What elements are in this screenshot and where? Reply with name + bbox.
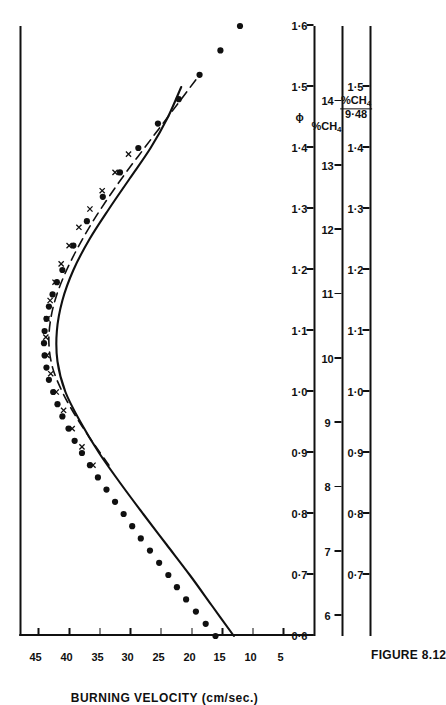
pct-ch4-over-948-tick-label: 1·5 — [342, 81, 368, 93]
pct-ch4-over-948-tick-label: 1·3 — [342, 203, 368, 215]
y-tick — [37, 628, 39, 636]
data-point — [112, 170, 117, 175]
phi-tick-label: 1·4 — [286, 142, 312, 154]
data-point — [49, 291, 55, 297]
y-tick — [252, 628, 254, 636]
axis-pct-ch4-title: %CH4 — [304, 120, 348, 134]
phi-tick-label: 0·9 — [286, 447, 312, 459]
data-point — [173, 584, 179, 590]
data-point — [146, 548, 152, 554]
data-point — [43, 335, 48, 340]
phi-tick-label: 0·7 — [286, 569, 312, 581]
data-point — [236, 23, 242, 29]
pct-ch4-over-948-tick-label: 1·4 — [342, 142, 368, 154]
data-point — [99, 188, 104, 193]
pct-ch4-over-948-tick-label: 0·9 — [342, 447, 368, 459]
y-tick — [221, 628, 223, 636]
phi-tick-label: 0·6 — [286, 630, 312, 642]
y-tick-label: 15 — [206, 651, 232, 663]
data-point — [212, 633, 218, 639]
data-point — [78, 450, 84, 456]
phi-tick-label: 1·2 — [286, 264, 312, 276]
axis-pct-ch4-ratio-title: %CH49·48 — [332, 96, 380, 121]
filled-circle-points — [40, 23, 242, 639]
pct-ch4-tick-label: 12 — [314, 224, 340, 236]
pct-ch4-over-948-tick-label: 0·7 — [342, 569, 368, 581]
data-point — [45, 377, 51, 383]
data-point — [83, 218, 89, 224]
y-tick — [160, 628, 162, 636]
figure-caption: FIGURE 8.12 — [371, 648, 446, 662]
data-point — [111, 499, 117, 505]
y-tick-label: 35 — [84, 651, 110, 663]
pct-ch4-over-948-tick-label: 1·2 — [342, 264, 368, 276]
pct-ch4-over-948-tick-label: 1·0 — [342, 386, 368, 398]
data-point — [94, 474, 100, 480]
pct-ch4-over-948-tick-label: 1·1 — [342, 325, 368, 337]
pct-ch4-tick-label: 8 — [314, 481, 340, 493]
y-tick — [68, 628, 70, 636]
phi-tick-label: 1·5 — [286, 81, 312, 93]
y-tick-label: 45 — [22, 651, 48, 663]
solid-curve — [56, 87, 234, 636]
y-tick-label: 20 — [176, 651, 202, 663]
data-point — [43, 365, 49, 371]
data-point — [76, 225, 81, 230]
data-point — [47, 298, 52, 303]
data-point — [154, 120, 160, 126]
data-point — [54, 401, 60, 407]
cross-marker-points — [43, 152, 131, 468]
data-point — [125, 152, 130, 157]
data-point — [99, 194, 105, 200]
pct-ch4-tick-label: 13 — [314, 160, 340, 172]
data-point — [129, 523, 135, 529]
data-point — [165, 572, 171, 578]
data-point — [87, 206, 92, 211]
data-point — [59, 413, 65, 419]
pct-ch4-tick-label: 11 — [314, 288, 340, 300]
y-tick-label: 30 — [114, 651, 140, 663]
pct-ch4-tick-label: 9 — [314, 417, 340, 429]
pct-ch4-tick-label: 6 — [314, 610, 340, 622]
dashed-curve — [48, 75, 199, 465]
data-point — [40, 340, 46, 346]
y-tick-label: 40 — [53, 651, 79, 663]
data-point — [135, 145, 141, 151]
data-point — [202, 621, 208, 627]
data-point — [192, 609, 198, 615]
data-point — [183, 596, 189, 602]
y-tick-label: 10 — [237, 651, 263, 663]
y-tick — [191, 628, 193, 636]
y-tick-label: 25 — [145, 651, 171, 663]
data-point — [217, 47, 223, 53]
data-point — [103, 487, 109, 493]
axis-phi-line — [313, 26, 315, 636]
data-point — [71, 438, 77, 444]
y-tick — [99, 628, 101, 636]
phi-tick-label: 1·0 — [286, 386, 312, 398]
pct-ch4-tick-label: 7 — [314, 546, 340, 558]
data-point — [48, 371, 53, 376]
data-point — [58, 261, 63, 266]
pct-ch4-over-948-tick-label: 0·8 — [342, 508, 368, 520]
y-tick-label: 5 — [267, 651, 293, 663]
phi-tick-label: 1·3 — [286, 203, 312, 215]
data-point — [43, 316, 49, 322]
data-point — [41, 328, 47, 334]
data-point — [120, 511, 126, 517]
data-point — [137, 535, 143, 541]
y-axis-title: BURNING VELOCITY (cm/sec.) — [64, 691, 264, 705]
y-tick — [129, 628, 131, 636]
y-tick — [282, 628, 284, 636]
data-point — [45, 304, 51, 310]
phi-tick-label: 1·6 — [286, 20, 312, 32]
phi-tick-label: 1·1 — [286, 325, 312, 337]
data-point — [156, 560, 162, 566]
data-point — [196, 72, 202, 78]
data-point — [61, 408, 66, 413]
data-point — [59, 267, 65, 273]
pct-ch4-tick-label: 10 — [314, 353, 340, 365]
data-point — [79, 444, 84, 449]
